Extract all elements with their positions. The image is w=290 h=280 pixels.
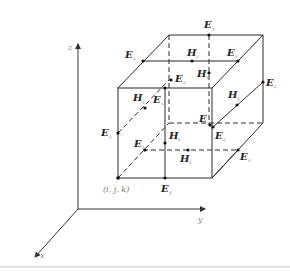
label-e-right-far: E (265, 77, 274, 88)
bottom-right-diagonal (212, 150, 238, 178)
svg-text:z: z (195, 53, 199, 59)
svg-text:x: x (178, 136, 181, 142)
label-e-top-right: E (226, 47, 235, 58)
svg-text:x: x (142, 144, 145, 150)
yee-cell-diagram: z y x (0, 0, 290, 280)
svg-text:x: x (248, 157, 251, 163)
label-e-mid-z: E (174, 73, 183, 84)
svg-text:z: z (108, 133, 112, 139)
svg-text:z: z (273, 83, 277, 89)
svg-text:z: z (188, 159, 192, 165)
svg-text:y: y (168, 189, 172, 196)
origin-label: (i, j, k) (103, 185, 129, 194)
label-e-left-diag: E (152, 94, 161, 105)
svg-text:y: y (206, 119, 210, 126)
svg-text:z: z (222, 136, 226, 142)
svg-text:z: z (182, 79, 186, 85)
svg-text:x: x (206, 74, 209, 80)
label-e-top-left: E (124, 49, 133, 60)
svg-text:y: y (141, 98, 145, 105)
z-axis-label: z (67, 43, 73, 52)
label-e-bottom-x: E (133, 138, 142, 149)
label-e-right-z: E (214, 130, 223, 141)
svg-text:y: y (236, 95, 240, 102)
x-axis-label: x (40, 251, 45, 260)
label-e-top-back: E (203, 19, 212, 30)
label-e-left-z: E (100, 127, 109, 138)
svg-text:y: y (211, 25, 215, 32)
label-e-bottom-y: E (160, 183, 169, 194)
svg-text:x: x (133, 55, 136, 61)
y-axis-label: y (197, 215, 203, 224)
svg-text:x: x (235, 53, 238, 59)
svg-text:x: x (161, 100, 164, 106)
label-e-bottom-right: E (239, 151, 248, 162)
x-axis (35, 209, 78, 257)
label-e-front-y: E (198, 113, 207, 124)
